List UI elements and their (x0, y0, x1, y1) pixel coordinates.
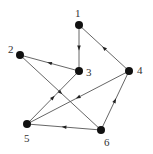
node-1 (75, 21, 83, 29)
directed-graph: 123456 (0, 0, 153, 154)
node-label-2: 2 (8, 43, 14, 55)
node-label-4: 4 (137, 64, 143, 76)
arrowhead-icon (112, 98, 116, 103)
node-label-6: 6 (104, 136, 110, 148)
node-2 (16, 51, 24, 59)
node-label-1: 1 (75, 7, 81, 19)
node-5 (23, 120, 31, 128)
node-4 (125, 67, 133, 75)
node-6 (97, 126, 105, 134)
arrowhead-icon (77, 46, 81, 51)
edges-group (20, 25, 129, 130)
node-label-5: 5 (24, 132, 30, 144)
node-3 (75, 67, 83, 75)
arrowhead-icon (47, 62, 52, 65)
arrowhead-icon (76, 95, 81, 99)
node-label-3: 3 (86, 66, 92, 78)
